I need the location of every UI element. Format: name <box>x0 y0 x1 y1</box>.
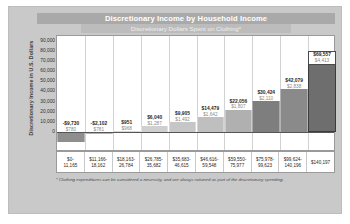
y-tick-label: 70,000 <box>40 58 55 63</box>
clothing-value: $4,413 <box>310 58 334 64</box>
bar-data-label: -$2,102$781 <box>85 121 113 132</box>
clothing-value: $2,110 <box>252 96 280 102</box>
grid-line <box>141 36 142 150</box>
clothing-value: $968 <box>113 126 141 132</box>
bar[interactable] <box>225 110 253 132</box>
x-axis-category: $18,163-26,784 <box>113 152 141 172</box>
clothing-value: $1,287 <box>141 121 169 127</box>
clothing-value: $1,807 <box>225 104 253 110</box>
chart-subtitle-bar: Discretionary Dollars Spent on Clothing* <box>81 24 291 33</box>
chart-screenshot: Discretionary Income by Household Income… <box>0 0 350 224</box>
bar-data-label: $9,905$1,492 <box>169 111 197 122</box>
x-axis-labels: $0-11,165$11,166-18,162$18,163-26,784$26… <box>56 151 335 173</box>
bar-data-label: -$9,730$780 <box>57 121 85 132</box>
y-tick-label: 30,000 <box>40 98 55 103</box>
bar[interactable] <box>169 122 197 132</box>
bar-data-label: $42,079$2,838 <box>280 78 308 89</box>
x-axis-category-line: 35,682 <box>147 163 161 169</box>
x-axis-category: $35,683-46,615 <box>168 152 196 172</box>
bar-data-label: $30,424$2,110 <box>252 90 280 101</box>
bar[interactable] <box>57 132 85 142</box>
grid-line <box>197 36 198 150</box>
y-axis-ticks: 90,00080,00070,00060,00050,00040,00030,0… <box>27 35 55 151</box>
chart-subtitle: Discretionary Dollars Spent on Clothing* <box>131 25 241 32</box>
x-axis-category-line: 18,162 <box>91 163 105 169</box>
x-axis-category: $11,166-18,162 <box>85 152 113 172</box>
y-tick-label: 0 <box>52 128 55 133</box>
x-axis-category-line: 11,165 <box>64 163 78 169</box>
x-axis-category: $0-11,165 <box>57 152 85 172</box>
x-axis-category: $75,978-99,623 <box>252 152 280 172</box>
bar-data-label: $22,056$1,807 <box>225 99 253 110</box>
chart-title-bar: Discretionary Income by Household Income <box>37 13 335 24</box>
x-axis-category-line: 46,615 <box>175 163 189 169</box>
plot-area: -$9,730$780-$2,102$781$951$968$6,040$1,2… <box>56 35 335 151</box>
bar-data-label: $14,479$1,642 <box>197 106 225 117</box>
grid-line <box>113 36 114 150</box>
y-tick-label: 60,000 <box>40 68 55 73</box>
x-axis-category-line: 26,784 <box>119 163 133 169</box>
chart-panel: Discretionary Income by Household Income… <box>8 6 342 214</box>
x-axis-category: $26,785-35,682 <box>140 152 168 172</box>
y-tick-label: 50,000 <box>40 78 55 83</box>
clothing-value: $2,838 <box>280 84 308 90</box>
bar[interactable] <box>252 101 280 132</box>
bar[interactable] <box>308 62 336 132</box>
x-axis-category: $140,197 <box>307 152 334 172</box>
grid-line <box>224 36 225 150</box>
x-axis-category-line: $140,197 <box>311 160 330 166</box>
y-tick-label: 10,000 <box>40 118 55 123</box>
y-tick-label: 20,000 <box>40 108 55 113</box>
clothing-value: $1,492 <box>169 117 197 123</box>
bar-data-label: $951$968 <box>113 120 141 131</box>
y-tick-label: 80,000 <box>40 48 55 53</box>
x-axis-category-line: 140,196 <box>284 163 301 169</box>
bar-data-label: $6,040$1,287 <box>141 115 169 126</box>
x-axis-category: $99,624-140,196 <box>279 152 307 172</box>
bar[interactable] <box>280 89 308 131</box>
grid-line <box>169 36 170 150</box>
clothing-value: $1,642 <box>197 112 225 118</box>
x-axis-category-line: 75,977 <box>230 163 244 169</box>
y-tick-label: 40,000 <box>40 88 55 93</box>
x-axis-category-line: 59,548 <box>202 163 216 169</box>
x-axis-category-line: 99,623 <box>258 163 272 169</box>
y-tick-label: 90,000 <box>40 38 55 43</box>
x-axis-category: $46,616-59,548 <box>196 152 224 172</box>
bar-data-label: $69,557$4,413 <box>308 51 336 65</box>
chart-footnote: * Clothing expenditures can be considere… <box>56 177 335 182</box>
zero-axis-line <box>57 132 334 133</box>
bar[interactable] <box>197 117 225 132</box>
x-axis-category: $59,550-75,977 <box>224 152 252 172</box>
page-title: Discretionary Income by Household Income <box>105 14 267 23</box>
